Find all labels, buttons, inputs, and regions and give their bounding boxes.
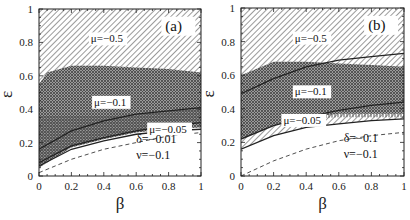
y-tick-label: 0.2 <box>19 137 33 149</box>
y-tick-label: 0.8 <box>19 36 33 48</box>
region-label: μ=−0.05 <box>283 114 321 126</box>
x-tick-label: 0 <box>238 180 244 192</box>
region-label: μ=−0.1 <box>295 85 327 97</box>
region-2 <box>241 62 404 139</box>
y-tick-label: 0 <box>28 170 34 182</box>
y-axis-label: ε <box>199 90 218 97</box>
parameter-label: δ=−0.1 <box>344 131 378 145</box>
phase-diagram-b: 00.20.40.60.8100.20.40.60.81βεμ=−0.5μ=−0… <box>202 0 407 220</box>
x-tick-label: 0.8 <box>365 180 379 192</box>
x-axis-label: β <box>116 194 125 213</box>
panel-b: 00.20.40.60.8100.20.40.60.81βεμ=−0.5μ=−0… <box>202 0 407 220</box>
x-tick-label: 0 <box>36 180 42 192</box>
region-label: μ=−0.5 <box>91 32 124 44</box>
parameter-label: ν=−0.1 <box>136 148 170 162</box>
region-label: μ=−0.1 <box>94 96 126 108</box>
x-tick-label: 0.8 <box>162 180 176 192</box>
x-tick-label: 0.4 <box>97 180 111 192</box>
panel-tag: (a) <box>165 18 182 35</box>
y-tick-label: 0.2 <box>221 136 235 148</box>
x-tick-label: 1 <box>401 180 407 192</box>
parameter-label: δ=−0.01 <box>136 132 176 146</box>
y-tick-label: 0.4 <box>221 103 235 115</box>
y-tick-label: 0.6 <box>19 70 33 82</box>
y-axis-label: ε <box>0 91 16 98</box>
parameter-label: ν=−0.1 <box>344 147 378 161</box>
y-tick-label: 1 <box>28 3 34 15</box>
x-tick-label: 0.2 <box>267 180 281 192</box>
x-tick-label: 0.6 <box>332 180 346 192</box>
y-tick-label: 1 <box>230 2 236 14</box>
region-label: μ=−0.5 <box>295 32 328 44</box>
x-tick-label: 0.4 <box>299 180 313 192</box>
x-axis-label: β <box>318 194 327 213</box>
panel-tag: (b) <box>368 17 386 34</box>
x-tick-label: 0.2 <box>65 180 79 192</box>
y-tick-label: 0.6 <box>221 69 235 81</box>
y-tick-label: 0 <box>230 170 236 182</box>
y-tick-label: 0.4 <box>19 103 33 115</box>
phase-diagram-a: 00.20.40.60.8100.20.40.60.81βεμ=−0.5μ=−0… <box>0 0 205 220</box>
x-tick-label: 0.6 <box>129 180 143 192</box>
y-tick-label: 0.8 <box>221 36 235 48</box>
panel-a: 00.20.40.60.8100.20.40.60.81βεμ=−0.5μ=−0… <box>0 0 205 220</box>
